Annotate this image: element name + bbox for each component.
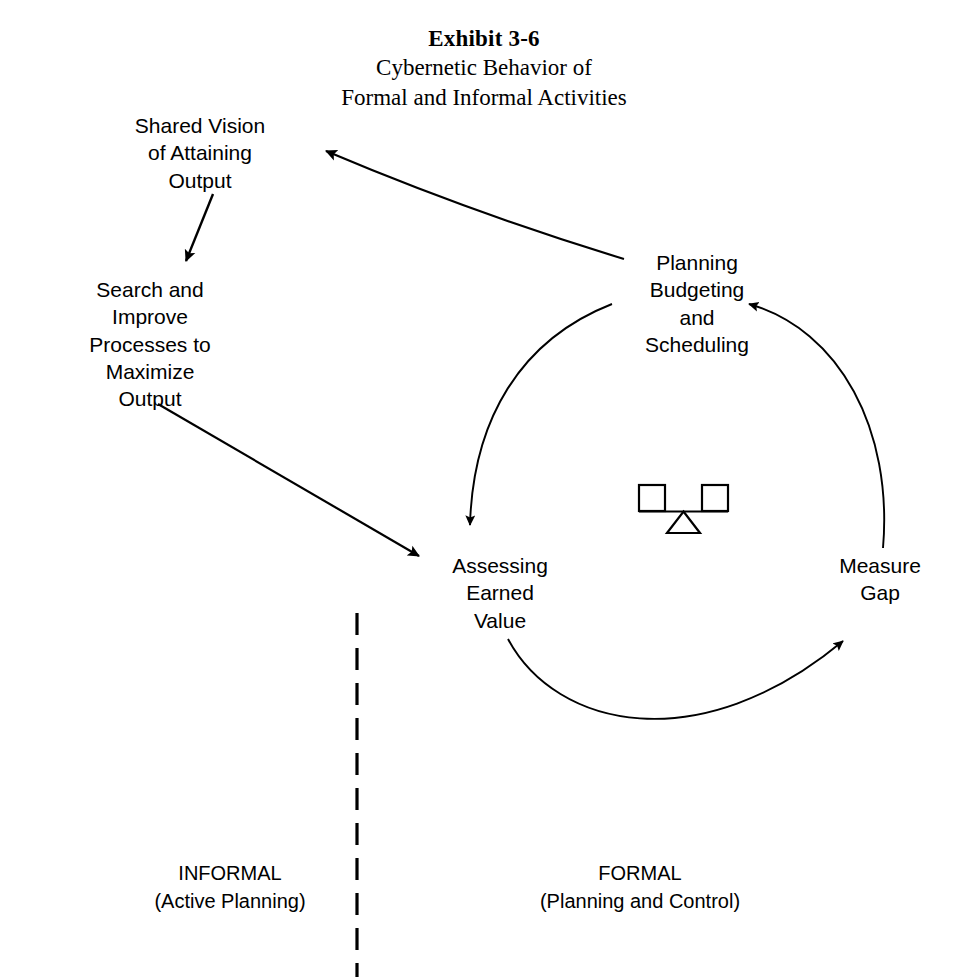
edge-shared-vision-to-search [186, 194, 213, 261]
edge-planning-to-shared-vision [326, 151, 624, 259]
exhibit-diagram-canvas: Exhibit 3-6 Cybernetic Behavior of Forma… [0, 0, 968, 977]
edge-assessing-to-measure-gap [508, 639, 843, 719]
edge-planning-to-assessing [470, 304, 612, 525]
zone-label-formal: FORMAL (Planning and Control) [480, 859, 800, 916]
node-search-and-improve: Search and Improve Processes to Maximize… [25, 276, 275, 412]
node-planning-budgeting-scheduling: Planning Budgeting and Scheduling [607, 249, 787, 358]
balance-scale-icon [639, 485, 728, 533]
node-assessing-earned-value: Assessing Earned Value [400, 552, 600, 634]
node-measure-gap: Measure Gap [800, 552, 960, 607]
edge-search-to-assessing [158, 404, 419, 556]
zone-label-informal: INFORMAL (Active Planning) [100, 859, 360, 916]
node-shared-vision: Shared Vision of Attaining Output [85, 112, 315, 194]
